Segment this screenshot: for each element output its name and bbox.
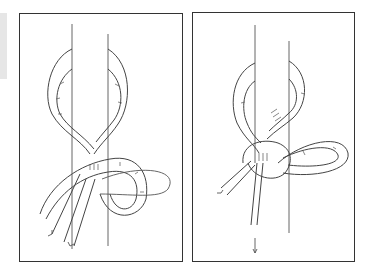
knot-step-2-panel [192, 12, 355, 262]
knot-step-2-illustration [193, 13, 356, 263]
side-strip [0, 13, 7, 79]
knot-step-1-illustration [20, 14, 184, 263]
knot-step-1-panel [19, 13, 183, 262]
